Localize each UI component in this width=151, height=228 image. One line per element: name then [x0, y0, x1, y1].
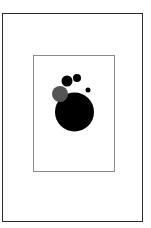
circle-gray	[52, 86, 68, 102]
circles-canvas	[0, 0, 151, 228]
circle-small-black	[73, 74, 81, 82]
circle-tiny-black	[86, 88, 91, 93]
circle-medium-black	[62, 76, 73, 87]
